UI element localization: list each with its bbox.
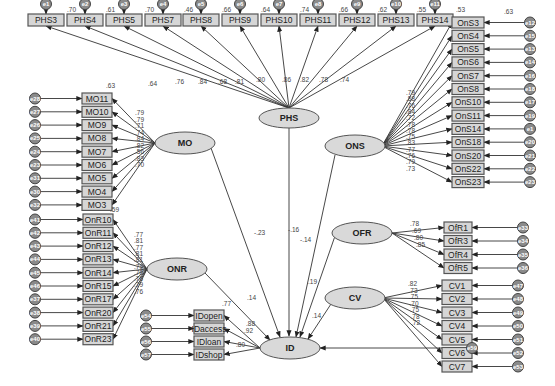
indicator-mo7-label: MO7 bbox=[88, 147, 107, 157]
indicator-onr14-label: OnR14 bbox=[85, 268, 112, 278]
error-term: e23 bbox=[525, 177, 536, 188]
error-term: e19 bbox=[525, 110, 536, 121]
indicator-cv4-label: CV4 bbox=[449, 321, 466, 331]
error-term-label: e36 bbox=[518, 265, 529, 271]
error-term-label: e1 bbox=[527, 126, 534, 132]
coef-ofr-to-id: .19 bbox=[308, 278, 317, 285]
error-term: e46 bbox=[30, 281, 41, 292]
indicator-ons4: OnS4 bbox=[452, 30, 484, 41]
indicator-ons5: OnS5 bbox=[452, 44, 484, 55]
factor-loading: .80 bbox=[236, 341, 245, 348]
indicator-ofr3-label: OfR3 bbox=[448, 236, 468, 246]
indicator-onr20: OnR20 bbox=[83, 307, 113, 318]
latent-id-label: ID bbox=[286, 343, 296, 353]
indicator-ons11: OnS11 bbox=[452, 110, 484, 121]
error-term-label: e18 bbox=[525, 86, 536, 92]
indicator-mo9-label: MO9 bbox=[88, 120, 107, 130]
error-term-label: e44 bbox=[30, 256, 41, 262]
mo-loading-path bbox=[112, 99, 155, 144]
indicator-phs12: PHS12 bbox=[339, 14, 375, 26]
indicator-mo5: MO5 bbox=[82, 173, 112, 184]
error-term: e41 bbox=[30, 214, 41, 225]
error-term-label: e8 bbox=[315, 1, 322, 7]
error-term: e34 bbox=[518, 236, 529, 247]
indicator-ofr3: OfR3 bbox=[444, 236, 472, 247]
ons-loading-path bbox=[382, 142, 452, 146]
error-term: e11 bbox=[430, 0, 441, 10]
indicator-ons14-label: OnS14 bbox=[455, 124, 482, 134]
error-term: e50 bbox=[513, 321, 524, 332]
factor-loading: .88 bbox=[246, 320, 255, 327]
indicator-ons22: OnS22 bbox=[452, 163, 484, 174]
error-term-label: e10 bbox=[391, 1, 402, 7]
indicator-onr10: OnR10 bbox=[83, 214, 113, 225]
error-term-label: e23 bbox=[30, 162, 41, 168]
indicator-ons23: OnS23 bbox=[452, 177, 484, 188]
factor-loading: .84 bbox=[198, 78, 207, 85]
indicator-idloan-label: IDloan bbox=[197, 337, 222, 347]
error-term-label: e20 bbox=[525, 139, 536, 145]
error-term-label: e32 bbox=[30, 202, 41, 208]
error-term-label: e19 bbox=[525, 113, 536, 119]
indicator-phs10: PHS10 bbox=[261, 14, 297, 26]
indicator-ofr4: OfR4 bbox=[444, 249, 472, 260]
factor-loading: .78 bbox=[410, 220, 419, 227]
indicator-idopen-label: IDopen bbox=[195, 311, 223, 321]
error-term-label: e7 bbox=[276, 1, 283, 7]
indicator-idaccess-label: IDaccess bbox=[192, 324, 227, 334]
indicator-phs9: PHS9 bbox=[222, 14, 258, 26]
indicator-phs4-label: PHS4 bbox=[74, 15, 96, 25]
r-squared: .46 bbox=[184, 6, 193, 13]
indicator-phs14-label: PHS14 bbox=[422, 15, 449, 25]
error-term: e40 bbox=[30, 334, 41, 345]
error-term-label: e49 bbox=[513, 310, 524, 316]
error-term: e2 bbox=[80, 0, 91, 10]
error-term-label: e57 bbox=[141, 352, 152, 358]
indicator-mo7: MO7 bbox=[82, 146, 112, 157]
ons-loading-path bbox=[382, 23, 452, 147]
r-squared: .70 bbox=[145, 6, 154, 13]
error-term: e53 bbox=[513, 361, 524, 372]
indicator-cv3-label: CV3 bbox=[449, 308, 466, 318]
latent-mo-label: MO bbox=[178, 138, 193, 148]
coef-mo-to-id: -.23 bbox=[254, 229, 266, 236]
indicator-phs5: PHS5 bbox=[106, 14, 142, 26]
error-term-label: e45 bbox=[30, 270, 41, 276]
latent-onr-label: ONR bbox=[167, 264, 188, 274]
factor-loading: .78 bbox=[319, 76, 328, 83]
indicator-phs11: PHS11 bbox=[300, 14, 336, 26]
error-term: e51 bbox=[513, 334, 524, 345]
indicator-cv5: CV5 bbox=[442, 334, 472, 345]
latent-ons: ONS bbox=[325, 135, 385, 157]
indicator-cv1: CV1 bbox=[442, 280, 472, 291]
indicator-cv1-label: CV1 bbox=[449, 281, 466, 291]
error-term: e25 bbox=[30, 133, 41, 144]
error-term: e43 bbox=[30, 241, 41, 252]
error-term-label: e14 bbox=[525, 59, 536, 65]
factor-loading: .64 bbox=[148, 80, 157, 87]
latent-cv: CV bbox=[325, 287, 385, 309]
indicator-idaccess: IDaccess bbox=[192, 323, 227, 334]
error-term: e35 bbox=[518, 249, 529, 260]
indicator-mo3: MO3 bbox=[82, 199, 112, 210]
factor-loading: .81 bbox=[235, 78, 244, 85]
ons-loading-path bbox=[382, 146, 452, 182]
error-term-label: e53 bbox=[513, 364, 524, 370]
error-term-label: e52 bbox=[513, 350, 524, 356]
indicator-phs10-label: PHS10 bbox=[266, 15, 293, 25]
error-term: e6 bbox=[235, 0, 246, 10]
error-term: e36 bbox=[518, 263, 529, 274]
indicator-ofr5: OfR5 bbox=[444, 263, 472, 274]
error-term-label: e41 bbox=[30, 217, 41, 223]
error-term-label: e24 bbox=[30, 149, 41, 155]
error-term: e42 bbox=[30, 227, 41, 238]
error-term-label: e4 bbox=[160, 1, 167, 7]
error-term: e23 bbox=[30, 160, 41, 171]
latent-id: ID bbox=[260, 337, 320, 359]
mo-loading-path bbox=[112, 143, 155, 178]
error-term-label: e5 bbox=[198, 1, 205, 7]
error-term-label: e34 bbox=[518, 238, 529, 244]
indicator-phs14: PHS14 bbox=[417, 14, 453, 26]
factor-loading: .69 bbox=[412, 227, 421, 234]
indicator-idshop: IDshop bbox=[194, 349, 224, 360]
